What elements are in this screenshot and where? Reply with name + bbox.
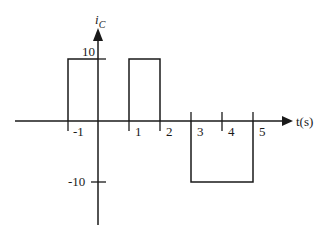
- pulse-neg1-to-0: [68, 59, 98, 121]
- x-axis-arrow-icon: [282, 116, 293, 126]
- x-tick-label-3: 3: [197, 124, 204, 139]
- y-axis-label: iC: [95, 12, 106, 30]
- x-tick-label-4: 4: [228, 124, 235, 139]
- x-axis-label: t(s): [296, 114, 313, 129]
- y-tick-label-neg10: -10: [68, 174, 85, 189]
- x-tick-label-1: 1: [135, 124, 142, 139]
- pulse-1-to-2: [129, 59, 160, 121]
- x-tick-label-neg1: -1: [73, 124, 84, 139]
- x-tick-label-5: 5: [259, 124, 266, 139]
- y-tick-label-10: 10: [82, 44, 95, 59]
- current-waveform-diagram: iC t(s) 10 -10 -1 1 2 3 4 5: [0, 0, 329, 240]
- x-tick-label-2: 2: [166, 124, 173, 139]
